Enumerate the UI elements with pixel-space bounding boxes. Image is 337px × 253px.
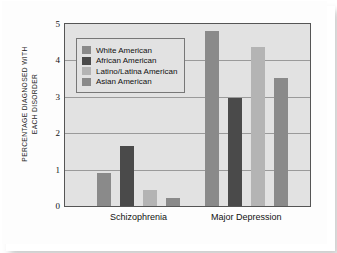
legend-label: Asian American [96,77,152,86]
legend-swatch-icon [82,46,91,54]
y-tick-label-0: 0 [56,201,61,211]
x-category-label: Major Depression [211,212,282,222]
legend-swatch-icon [82,78,91,86]
chart-card: PERCENTAGE DIAGNOSED WITH EACH DISORDER … [0,0,337,253]
chart-inner: PERCENTAGE DIAGNOSED WITH EACH DISORDER … [2,1,327,244]
legend-item: African American [82,56,177,65]
y-tick-label-4: 4 [56,55,61,65]
bar [228,98,242,206]
legend-label: African American [96,56,156,65]
y-tick-label-5: 5 [56,19,61,29]
bar [166,198,180,206]
bar [97,173,111,206]
y-axis-title: PERCENTAGE DIAGNOSED WITH EACH DISORDER [20,9,50,199]
y-tick-label-2: 2 [56,128,61,138]
y-tick-label-1: 1 [56,165,61,175]
chart-legend: White AmericanAfrican AmericanLatino/Lat… [76,38,185,93]
legend-item: White American [82,46,177,55]
bar [143,190,157,206]
legend-item: Latino/Latina American [82,67,177,76]
bar [274,78,288,206]
legend-label: White American [96,46,152,55]
legend-label: Latino/Latina American [96,67,177,76]
bar [251,47,265,206]
legend-swatch-icon [82,67,91,75]
y-tick-label-3: 3 [56,92,61,102]
legend-swatch-icon [82,57,91,65]
x-category-label: Schizophrenia [110,212,167,222]
legend-item: Asian American [82,77,177,86]
bar [205,31,219,206]
bar [120,146,134,206]
